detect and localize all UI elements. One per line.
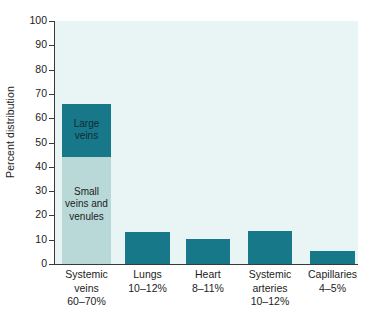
y-tick-label: 50 <box>35 136 47 149</box>
bar-lungs[interactable] <box>125 232 170 264</box>
bar-heart[interactable] <box>186 239 230 265</box>
x-label-range: 60–70% <box>39 295 135 309</box>
y-axis-title: Percent distribution <box>0 0 20 264</box>
y-axis-ticks: 1009080706050403020100 <box>20 21 54 264</box>
bar-segment-capillaries-bar[interactable] <box>310 251 355 264</box>
y-tick-label: 10 <box>35 233 47 246</box>
x-label-name: Capillaries <box>285 268 375 282</box>
bar-systemic-veins[interactable]: Small veins and venulesLarge veins <box>62 104 111 264</box>
x-label-range: 4–5% <box>285 282 375 296</box>
y-tick-label: 100 <box>29 14 47 27</box>
x-axis-labels: Systemic veins60–70%Lungs10–12%Heart8–11… <box>55 268 358 312</box>
bar-segment-label-small-veins-and-venules: Small veins and venules <box>62 186 111 224</box>
y-tick-label: 30 <box>35 184 47 197</box>
y-tick-label: 80 <box>35 63 47 76</box>
bar-segment-small-veins-and-venules[interactable]: Small veins and venules <box>62 157 111 264</box>
bar-segment-label-large-veins: Large veins <box>62 118 111 143</box>
bar-chart: Percent distribution 1009080706050403020… <box>0 0 375 312</box>
y-tick-label: 90 <box>35 38 47 51</box>
y-tick-label: 70 <box>35 87 47 100</box>
bar-capillaries[interactable] <box>310 251 355 264</box>
y-tick-label: 20 <box>35 208 47 221</box>
bar-systemic-arteries[interactable] <box>248 231 292 264</box>
bar-segment-systemic-arteries-bar[interactable] <box>248 231 292 264</box>
bar-segment-large-veins[interactable]: Large veins <box>62 104 111 157</box>
y-tick-label: 60 <box>35 111 47 124</box>
y-tick-label: 40 <box>35 160 47 173</box>
bar-segment-heart-bar[interactable] <box>186 239 230 265</box>
x-label-range: 10–12% <box>222 295 318 309</box>
plot-area: Small veins and venulesLarge veins <box>55 21 358 264</box>
x-label-capillaries: Capillaries4–5% <box>285 268 375 295</box>
bar-segment-lungs-bar[interactable] <box>125 232 170 264</box>
y-axis-title-text: Percent distribution <box>4 86 16 178</box>
x-axis-line <box>54 264 358 266</box>
